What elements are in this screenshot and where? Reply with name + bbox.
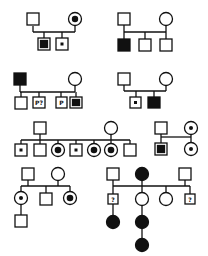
male-unaffected-icon xyxy=(15,215,27,227)
female-unaffected-icon xyxy=(160,13,173,26)
label-question: ? xyxy=(188,196,192,203)
pedigree-3: P? P xyxy=(14,73,82,110)
male-unaffected-icon xyxy=(40,193,52,205)
pedigree-1 xyxy=(27,13,82,51)
female-unaffected-icon xyxy=(160,193,173,206)
male-unaffected-icon xyxy=(34,144,46,156)
female-affected-icon xyxy=(136,216,149,229)
pedigree-4 xyxy=(118,73,173,109)
pedigree-5 xyxy=(15,122,136,157)
male-unaffected-icon xyxy=(160,39,172,51)
female-unaffected-icon xyxy=(160,73,173,86)
pedigree-2 xyxy=(118,13,173,52)
male-unaffected-icon xyxy=(27,13,39,25)
male-affected-icon xyxy=(118,39,130,51)
label-p: P xyxy=(59,99,64,106)
male-unaffected-icon xyxy=(118,73,130,85)
male-unaffected-icon xyxy=(124,144,136,156)
male-unaffected-icon xyxy=(15,97,27,109)
pedigree-diagram: P? P xyxy=(0,0,208,256)
female-affected-icon xyxy=(107,216,120,229)
female-unaffected-icon xyxy=(69,73,82,86)
male-affected-icon xyxy=(14,73,26,85)
female-unaffected-icon xyxy=(136,193,149,206)
male-unaffected-icon xyxy=(107,168,119,180)
male-unaffected-icon xyxy=(34,122,46,134)
female-unaffected-icon xyxy=(52,168,65,181)
male-unaffected-icon xyxy=(139,39,151,51)
male-affected-icon xyxy=(148,97,160,108)
male-unaffected-icon xyxy=(118,13,130,25)
female-unaffected-icon xyxy=(105,122,118,135)
label-p-question: P? xyxy=(35,99,43,106)
pedigree-7 xyxy=(15,168,77,228)
pedigree-8: ? ? xyxy=(107,168,196,252)
female-affected-icon xyxy=(136,239,149,252)
female-affected-icon xyxy=(136,168,149,181)
male-unaffected-icon xyxy=(179,168,191,180)
pedigree-6 xyxy=(155,122,198,156)
male-unaffected-icon xyxy=(155,122,167,134)
label-question: ? xyxy=(111,196,115,203)
male-unaffected-icon xyxy=(22,168,34,180)
